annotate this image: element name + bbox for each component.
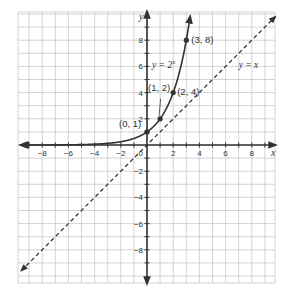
data-point xyxy=(171,90,176,95)
y-tick-label: 8 xyxy=(139,36,144,45)
line-y-equals-x xyxy=(21,17,275,271)
exponent: x xyxy=(171,58,176,66)
series-label-linear: y = x xyxy=(238,60,259,70)
series-lines xyxy=(21,16,275,271)
exponential-graph: xy −8−6−4−224688642−2−4−6−80 (0, 1)(1, 2… xyxy=(0,0,281,292)
series-label-exponential: y = 2x xyxy=(151,58,176,70)
x-tick-label: 6 xyxy=(223,149,228,158)
point-label: (0, 1) xyxy=(119,118,141,129)
y-tick-label: −6 xyxy=(134,220,144,229)
data-point xyxy=(184,38,189,43)
point-label: (1, 2) xyxy=(148,82,170,93)
data-point xyxy=(158,116,163,121)
x-tick-label: 8 xyxy=(250,149,255,158)
curve-y-equals-2-to-x xyxy=(21,16,190,145)
y-tick-label: −8 xyxy=(134,246,144,255)
y-tick-label: −2 xyxy=(134,167,144,176)
x-tick-label: 4 xyxy=(197,149,202,158)
y-tick-label: −4 xyxy=(134,193,144,202)
data-point xyxy=(144,129,149,134)
x-tick-label: −2 xyxy=(116,149,126,158)
point-label: (2, 4) xyxy=(177,86,199,97)
x-tick-label: −8 xyxy=(38,149,48,158)
x-tick-label: −4 xyxy=(90,149,100,158)
y-tick-label: 6 xyxy=(139,62,144,71)
x-tick-label: 2 xyxy=(171,149,176,158)
y-axis-label: y xyxy=(138,11,144,22)
x-tick-label: −6 xyxy=(64,149,74,158)
axes: xy xyxy=(20,11,276,284)
y-tick-label: 4 xyxy=(139,89,144,98)
x-axis-label: x xyxy=(270,147,276,158)
point-label: (3, 8) xyxy=(191,34,213,45)
